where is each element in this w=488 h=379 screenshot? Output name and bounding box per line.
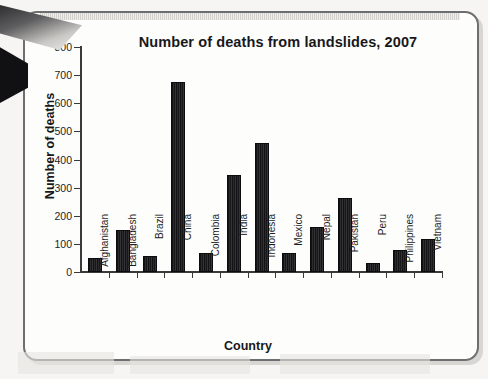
y-axis-tick-label: 100 [54,238,72,250]
y-axis-tick-label: 0 [66,266,72,278]
scanned-page: Number of deaths from landslides, 2007 N… [0,0,488,379]
x-axis-category-label: India [238,214,249,280]
y-axis-tick-label: 700 [54,69,72,81]
x-axis-category-label: Afghanistan [99,214,110,280]
y-axis-tick [74,188,81,189]
y-axis-tick-label: 600 [54,97,72,109]
y-axis-tick-label: 200 [54,210,72,222]
page-binding-strip [40,13,460,20]
y-axis-tick [74,244,81,245]
x-axis-category-label: Brazil [154,214,165,280]
x-axis-category-label: Pakistan [349,214,360,280]
x-axis-category-label: Peru [377,214,388,280]
bar-chart: Number of deaths from landslides, 2007 N… [23,11,479,361]
y-axis-tick [74,103,81,104]
x-axis-category-label: Nepal [321,214,332,280]
x-axis-category-label: Mexico [293,214,304,280]
y-axis-tick [74,160,81,161]
x-axis-title: Country [83,339,413,353]
x-axis-category-label: Colombia [210,214,221,280]
y-axis-title: Number of deaths [43,71,57,221]
x-axis-category-label: China [182,214,193,280]
y-axis-tick [74,272,81,273]
y-axis-tick [74,131,81,132]
y-axis-tick-label: 500 [54,125,72,137]
y-axis-tick [74,216,81,217]
y-axis-tick-label: 400 [54,154,72,166]
y-axis-tick-label: 300 [54,182,72,194]
y-axis-tick [74,75,81,76]
x-axis-category-label: Bangladesh [127,214,138,280]
x-axis-category-label: Vietnam [432,214,443,280]
plot-area: 8007006005004003002001000 AfghanistanBan… [81,47,442,272]
y-axis-tick [74,47,81,48]
x-axis-category-label: Philippines [404,214,415,280]
x-axis-category-label: Indonesia [266,214,277,280]
